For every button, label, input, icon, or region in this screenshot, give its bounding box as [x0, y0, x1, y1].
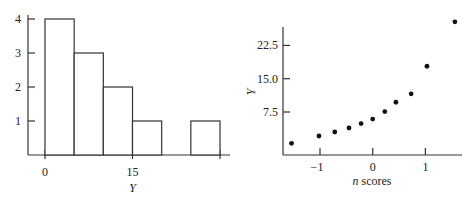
scatter-point [332, 130, 337, 135]
y-tick-label: 7.5 [263, 105, 278, 119]
scatter-chart: 7.515.022.5−101n scoresY [244, 19, 462, 188]
scatter-point [289, 141, 294, 146]
y-tick-label: 4 [15, 12, 21, 26]
scatter-point [317, 134, 322, 139]
y-tick-label: 22.5 [257, 38, 278, 52]
histogram-bar [74, 53, 103, 155]
scatter-point [359, 121, 364, 126]
scatter-point [347, 126, 352, 131]
scatter-point [393, 100, 398, 105]
figure: 1234015Y 7.515.022.5−101n scoresY [0, 0, 470, 202]
scatter-point [370, 117, 375, 122]
y-tick-label: 2 [15, 80, 21, 94]
scatter-point [425, 64, 430, 69]
scatter-point [453, 19, 458, 24]
histogram-chart: 1234015Y [15, 12, 230, 195]
histogram-bar [191, 121, 220, 155]
scatter-point [382, 109, 387, 114]
scatter-x-axis-label: n scores [353, 174, 392, 188]
y-tick-label: 3 [15, 46, 21, 60]
scatter-y-axis-label: Y [244, 87, 258, 95]
x-tick-label: 0 [42, 165, 48, 179]
histogram-bar [133, 121, 162, 155]
x-tick-label: 0 [370, 160, 376, 174]
histogram-bar [103, 87, 132, 155]
y-tick-label: 15.0 [257, 72, 278, 86]
y-tick-label: 1 [15, 114, 21, 128]
x-tick-label: 1 [422, 160, 428, 174]
x-tick-label: −1 [311, 160, 324, 174]
x-tick-label: 15 [127, 165, 139, 179]
scatter-point [409, 91, 414, 96]
histogram-x-axis-label: Y [129, 181, 137, 195]
histogram-bar [45, 19, 74, 155]
